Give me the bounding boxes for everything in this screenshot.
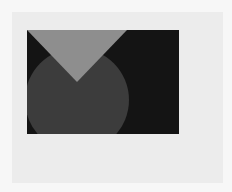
abstract-shapes-canvas bbox=[27, 30, 179, 134]
shapes-graphic bbox=[27, 30, 179, 134]
